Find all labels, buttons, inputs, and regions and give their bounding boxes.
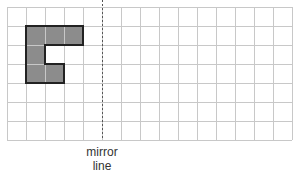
mirror-label-line2: line bbox=[72, 159, 132, 173]
mirror-line-label: mirror line bbox=[72, 145, 132, 173]
shape-cell bbox=[26, 45, 45, 64]
shape-cell bbox=[64, 26, 83, 45]
square-grid bbox=[0, 0, 299, 173]
shape-cell bbox=[45, 64, 64, 83]
reflection-diagram: mirror line bbox=[0, 0, 299, 173]
shape-cell bbox=[26, 26, 45, 45]
mirror-label-line1: mirror bbox=[72, 145, 132, 159]
shape-cell bbox=[26, 64, 45, 83]
shape-cell bbox=[45, 26, 64, 45]
